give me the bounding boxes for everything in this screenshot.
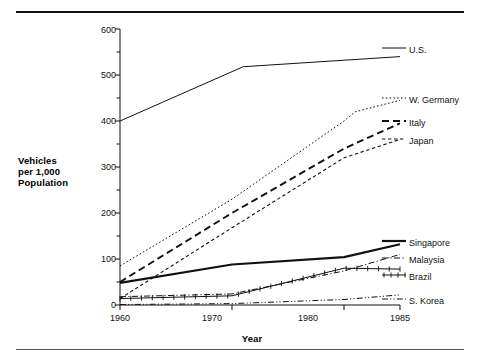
series-line-italy [120,123,400,282]
x-axis-ticks [120,305,400,310]
chart-plot-area [0,0,480,362]
series-markers-brazil [120,266,400,302]
chart-figure: Vehicles per 1,000 Population Year 600 5… [0,0,480,362]
series-line-japan [120,139,400,298]
y-axis-ticks [115,29,120,305]
legend-swatch-group [382,48,406,299]
series-line-brazil [120,268,400,298]
series-line-w-germany [120,100,400,266]
series-line-s-korea [120,295,400,305]
series-line-u-s [120,57,400,121]
series-lines-group [120,57,400,305]
series-line-singapore [120,244,400,283]
